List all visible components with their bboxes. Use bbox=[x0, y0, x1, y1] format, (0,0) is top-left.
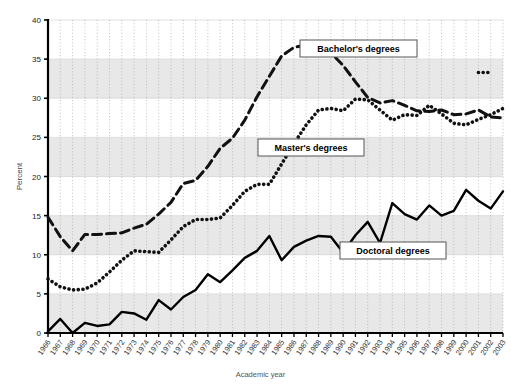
y-tick-label: 40 bbox=[32, 16, 41, 25]
x-axis-title: Academic year bbox=[236, 370, 286, 379]
y-axis-title: Percent bbox=[15, 162, 24, 190]
annotation-label: Master's degrees bbox=[274, 143, 347, 153]
y-tick-label: 35 bbox=[32, 55, 41, 64]
x-tick-group: 1966196719681969197019711972197319741975… bbox=[36, 333, 508, 357]
line-chart: 0510152025303540196619671968196919701971… bbox=[0, 0, 511, 385]
y-tick-label: 10 bbox=[32, 251, 41, 260]
y-band bbox=[48, 255, 503, 294]
x-tick-label: 2003 bbox=[491, 338, 508, 357]
y-tick-label: 5 bbox=[37, 290, 42, 299]
y-band bbox=[48, 294, 503, 333]
y-tick-label: 20 bbox=[32, 173, 41, 182]
annotation-label: Bachelor's degrees bbox=[317, 44, 400, 54]
y-tick-group: 0510152025303540 bbox=[32, 16, 48, 338]
y-band bbox=[48, 20, 503, 59]
annotation-label: Doctoral degrees bbox=[356, 246, 430, 256]
y-band bbox=[48, 98, 503, 137]
chart-container: 0510152025303540196619671968196919701971… bbox=[0, 0, 511, 385]
y-tick-label: 15 bbox=[32, 212, 41, 221]
y-tick-label: 30 bbox=[32, 94, 41, 103]
y-tick-label: 25 bbox=[32, 133, 41, 142]
y-tick-label: 0 bbox=[37, 329, 42, 338]
